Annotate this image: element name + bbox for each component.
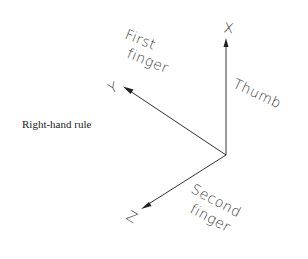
x-arrowhead-icon bbox=[224, 38, 229, 47]
thumb-label: Thumb bbox=[231, 75, 284, 111]
x-axis-label: X bbox=[223, 19, 235, 36]
y-axis-label: Y bbox=[106, 78, 121, 96]
y-axis bbox=[123, 87, 226, 156]
right-hand-rule-diagram: X Y Z Thumb First finger Second finger bbox=[0, 0, 308, 259]
z-axis-label: Z bbox=[124, 207, 141, 226]
x-axis bbox=[224, 38, 229, 155]
